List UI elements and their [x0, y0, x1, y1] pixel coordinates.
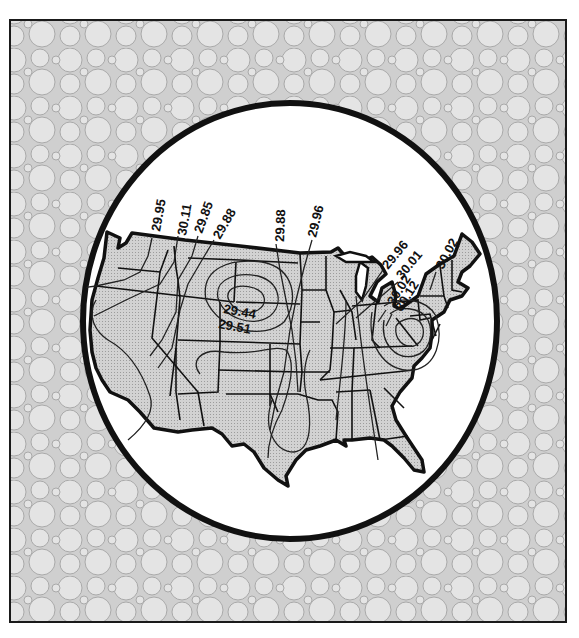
weather-map-figure: 29.95 30.11 29.85 29.88 29.88 29.96 29.4…	[0, 0, 579, 638]
isobar-label-29-88-nd: 29.88	[272, 209, 288, 242]
